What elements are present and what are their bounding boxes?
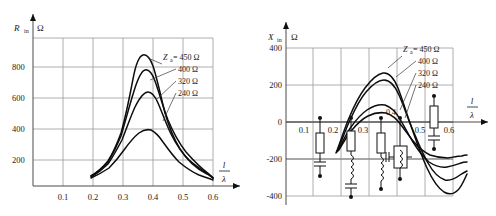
legend-item-450: = 450 Ω [173,53,200,62]
y-axis-label: R [13,23,20,33]
circuit-parallel-rl-4 [386,116,412,181]
x-tick-02: 0.2 [88,192,99,202]
legend-item-400: 400 Ω [178,65,198,74]
y-tick-600: 600 [12,93,25,103]
curve-320 [91,92,213,178]
x-tick-labels: 0.1 0.2 0.3 0.4 0.5 0.6 [58,192,219,202]
y-tick-0: 0 [278,117,282,127]
x-tick-05: 0.5 [178,192,189,202]
x-axis-label: l λ [219,160,230,184]
legend: Z a = 450 Ω 400 Ω 320 Ω 240 Ω [148,53,200,121]
y-axis-label: X [267,32,274,42]
x-tick-01: 0.1 [58,192,69,202]
y-tick-800: 800 [12,62,25,72]
x-tick-01: 0.1 [299,125,310,135]
figure-root: R in Ω 200 400 600 800 0.1 0.2 0.3 0.4 0… [0,0,496,216]
legend-item-320: 320 Ω [418,69,438,78]
legend-item-240: 240 Ω [418,81,438,90]
x-tick-04: 0.4 [148,192,159,202]
legend-za-symbol: Z [163,53,168,62]
y-tick-neg400: -400 [266,191,282,201]
y-axis-label-sub: in [24,28,29,34]
y-tick-400: 400 [12,124,25,134]
legend-item-400: 400 Ω [418,57,438,66]
axes [30,14,240,189]
svg-text:λ: λ [469,110,474,120]
y-tick-neg200: -200 [266,154,282,164]
legend-item-450: = 450 Ω [413,45,440,54]
chart-panel-input-reactance: X in Ω 400 200 0 -200 -400 0.1 0.2 0.3 0… [248,0,496,216]
legend-za-symbol: Z [403,45,408,54]
svg-text:λ: λ [221,174,226,184]
input-reactance-svg: X in Ω 400 200 0 -200 -400 0.1 0.2 0.3 0… [248,0,496,216]
circuit-series-rc-1 [314,116,326,178]
svg-text:l: l [471,96,474,106]
x-tick-03: 0.3 [118,192,129,202]
curve-240 [91,130,213,180]
y-tick-labels: 400 200 0 -200 -400 [266,43,282,201]
circuit-series-rc-5 [428,94,440,151]
x-tick-06: 0.6 [444,125,455,135]
chart-panel-input-resistance: R in Ω 200 400 600 800 0.1 0.2 0.3 0.4 0… [0,0,248,216]
input-resistance-svg: R in Ω 200 400 600 800 0.1 0.2 0.3 0.4 0… [0,0,248,216]
x-tick-02: 0.2 [328,125,339,135]
y-axis-unit: Ω [291,32,298,42]
y-tick-labels: 200 400 600 800 [12,62,25,165]
legend-item-320: 320 Ω [178,77,198,86]
x-tick-05: 0.5 [415,125,426,135]
y-tick-200: 200 [12,155,25,165]
legend-item-240: 240 Ω [178,89,198,98]
svg-text:l: l [223,160,226,170]
y-axis-unit: Ω [37,23,44,33]
y-tick-400: 400 [269,43,282,53]
circuit-series-rl-3 [377,116,385,191]
y-tick-200: 200 [269,80,282,90]
x-tick-03: 0.3 [358,125,369,135]
x-tick-06: 0.6 [208,192,219,202]
x-axis-label: l λ [467,96,478,120]
